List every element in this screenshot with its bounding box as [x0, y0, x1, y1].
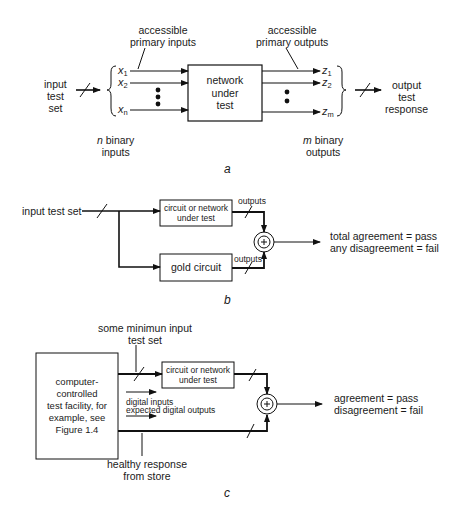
- caption-c: c: [224, 486, 230, 500]
- primary-inputs-label: accessibleprimary inputs: [130, 24, 196, 48]
- gold-circuit-box: gold circuit: [160, 254, 232, 281]
- dut-box-c: circuit or networkunder test: [162, 362, 234, 388]
- output-zm: zm: [322, 105, 334, 119]
- network-under-test-box: networkundertest: [188, 65, 262, 121]
- input-x2: x2: [118, 76, 128, 90]
- primary-outputs-label: accessibleprimary outputs: [256, 24, 328, 48]
- m-binary-outputs-label: m binary outputs: [303, 134, 343, 158]
- caption-b: b: [224, 293, 231, 307]
- output-test-response-label: outputtestresponse: [385, 79, 428, 115]
- dut-box-b: circuit or networkunder test: [160, 200, 232, 226]
- input-test-set-label-b: input test set: [22, 205, 82, 217]
- n-binary-inputs-label: n binary inputs: [97, 134, 134, 158]
- outputs-label-bottom: outputs: [234, 254, 262, 264]
- min-input-test-set-label: some minimun inputtest set: [98, 322, 192, 346]
- output-z2: z2: [322, 76, 332, 90]
- outputs-label-top: outputs: [238, 196, 266, 206]
- expected-digital-outputs-label: expected digital outputs: [126, 405, 215, 415]
- input-test-set-label: inputtestset: [44, 78, 67, 114]
- result-text-b: total agreement = passany disagreement =…: [330, 230, 439, 254]
- healthy-response-label: healthy responsefrom store: [107, 458, 187, 482]
- test-facility-box: computer-controlledtest facility, forexa…: [36, 353, 118, 459]
- caption-a: a: [224, 162, 231, 176]
- result-text-c: agreement = passdisagreement = fail: [334, 392, 423, 416]
- input-xn: xn: [118, 103, 128, 117]
